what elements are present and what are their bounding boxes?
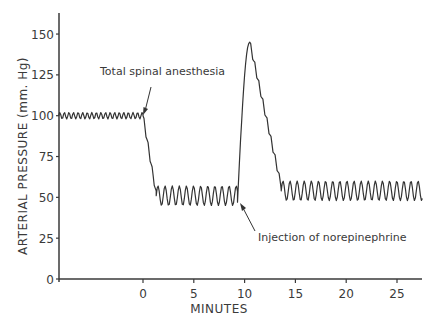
annotation-norepinephrine: Injection of norepinephrine: [240, 203, 407, 244]
annotation-norepinephrine-label: Injection of norepinephrine: [258, 231, 407, 244]
y-tick-label: 150: [31, 28, 54, 42]
x-axis-title: MINUTES: [190, 302, 248, 316]
arrow-head-icon: [240, 203, 246, 211]
x-tick-label: 0: [139, 287, 147, 301]
y-tick-label: 100: [31, 109, 54, 123]
annotation-spinal-label: Total spinal anesthesia: [99, 65, 225, 78]
arrow-line: [145, 87, 151, 111]
y-tick-label: 0: [46, 273, 54, 287]
y-axis-title: ARTERIAL PRESSURE (mm. Hg): [16, 57, 30, 255]
annotation-spinal-anesthesia: Total spinal anesthesia: [99, 65, 225, 115]
y-tick-label: 25: [39, 232, 54, 246]
x-tick-label: 20: [339, 287, 354, 301]
axes: 0255075100125150 0510152025: [31, 13, 422, 301]
arrow-head-icon: [143, 107, 148, 115]
y-ticks: 0255075100125150: [31, 28, 59, 287]
arrow-line: [243, 208, 255, 231]
y-tick-label: 50: [39, 191, 54, 205]
x-tick-label: 15: [288, 287, 303, 301]
x-ticks: 0510152025: [139, 279, 404, 301]
y-tick-label: 75: [39, 150, 54, 164]
x-tick-label: 10: [237, 287, 252, 301]
x-tick-label: 5: [190, 287, 198, 301]
y-tick-label: 125: [31, 68, 54, 82]
x-tick-label: 25: [389, 287, 404, 301]
pressure-chart: 0255075100125150 0510152025 ARTERIAL PRE…: [0, 0, 439, 336]
